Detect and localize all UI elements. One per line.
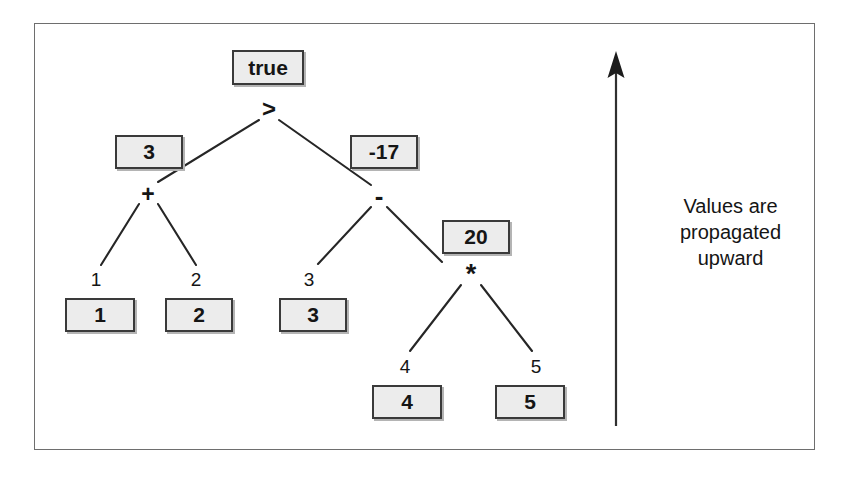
value-box-product: 20	[442, 220, 510, 254]
value-box-leaf5: 5	[495, 385, 565, 419]
edge-label-leaf2: 2	[191, 270, 202, 289]
caption-line-2: propagated	[648, 219, 813, 245]
caption-line-3: upward	[648, 245, 813, 271]
node-operator-minus: -	[375, 183, 384, 209]
edge-label-leaf4: 4	[400, 357, 411, 376]
edge-label-leaf5: 5	[531, 357, 542, 376]
figure-canvas: true 3 -17 20 1 2 3 4 5 > + - * 1 2 3 4 …	[0, 0, 848, 479]
value-box-left-sum: 3	[115, 135, 183, 169]
edge-label-leaf3: 3	[304, 270, 315, 289]
node-operator-multiply: *	[466, 261, 477, 288]
value-box-leaf3: 3	[279, 298, 347, 332]
caption-line-1: Values are	[648, 193, 813, 219]
value-box-leaf1: 1	[65, 298, 135, 332]
value-box-root: true	[232, 50, 304, 85]
value-box-leaf4: 4	[372, 385, 442, 419]
propagation-caption: Values are propagated upward	[648, 193, 813, 271]
node-operator-plus: +	[141, 183, 154, 206]
edge-label-leaf1: 1	[91, 270, 102, 289]
value-box-leaf2: 2	[165, 298, 233, 332]
node-operator-greater-than: >	[262, 97, 276, 121]
value-box-right-diff: -17	[350, 135, 418, 169]
